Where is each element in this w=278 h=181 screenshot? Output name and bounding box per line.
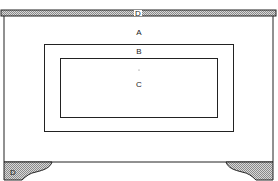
label-a: A — [136, 28, 142, 37]
panel-diagram: D A B C D — [0, 0, 278, 181]
label-b: B — [136, 47, 141, 56]
label-d-foot: D — [10, 168, 16, 177]
top-rail: D — [1, 9, 276, 18]
label-c: C — [136, 80, 142, 89]
center-dot — [139, 70, 140, 71]
left-foot: D — [4, 162, 52, 180]
right-foot — [226, 162, 273, 180]
label-d-top: D — [135, 9, 141, 18]
